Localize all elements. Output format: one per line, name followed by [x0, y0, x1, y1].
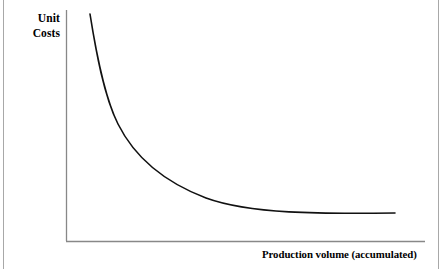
y-axis-label-line2: Costs	[33, 27, 60, 39]
x-axis-label: Production volume (accumulated)	[262, 248, 417, 262]
y-axis-label: UnitCosts	[8, 11, 60, 40]
experience-curve-line	[90, 14, 395, 213]
y-axis-label-line1: Unit	[38, 12, 60, 24]
experience-curve-figure: UnitCosts Production volume (accumulated…	[0, 0, 445, 269]
plot-area	[0, 0, 445, 269]
